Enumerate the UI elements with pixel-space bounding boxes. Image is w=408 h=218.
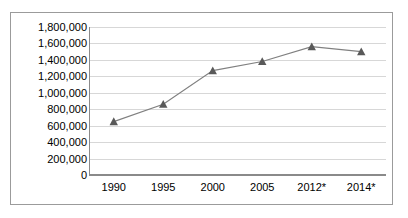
- x-axis-tick-label: 2012*: [297, 181, 326, 193]
- y-axis-tick-label: 1,000,000: [13, 88, 87, 99]
- x-axis-tick-label: 2000: [201, 181, 225, 193]
- y-axis-tick-label: 600,000: [13, 121, 87, 132]
- series-polyline: [114, 47, 362, 122]
- plot-area: [89, 27, 386, 175]
- y-axis-tick-label: 0: [13, 170, 87, 181]
- x-axis-tick-label: 2014*: [347, 181, 376, 193]
- data-series-line: [89, 27, 386, 175]
- y-axis-tick-label: 200,000: [13, 154, 87, 165]
- y-axis-tick-label: 1,400,000: [13, 55, 87, 66]
- chart-frame: 1,800,0001,600,0001,400,0001,200,0001,00…: [10, 12, 393, 205]
- y-axis-tick-label: 800,000: [13, 104, 87, 115]
- y-axis-tick-labels: 1,800,0001,600,0001,400,0001,200,0001,00…: [13, 22, 87, 177]
- y-axis-tick-label: 400,000: [13, 137, 87, 148]
- chart-plot-wrapper: 1,800,0001,600,0001,400,0001,200,0001,00…: [11, 13, 392, 204]
- data-point-marker: [159, 100, 167, 108]
- x-axis-tick-label: 1990: [102, 181, 126, 193]
- x-axis-tick-label: 2005: [250, 181, 274, 193]
- y-axis-tick-label: 1,800,000: [13, 22, 87, 33]
- data-point-marker: [308, 43, 316, 51]
- y-axis-tick-label: 1,200,000: [13, 71, 87, 82]
- x-axis-tick-labels: 19901995200020052012*2014*: [89, 181, 386, 197]
- gridline: [89, 175, 386, 176]
- data-point-marker: [110, 117, 118, 125]
- x-axis-tick-label: 1995: [151, 181, 175, 193]
- y-axis-tick-label: 1,600,000: [13, 38, 87, 49]
